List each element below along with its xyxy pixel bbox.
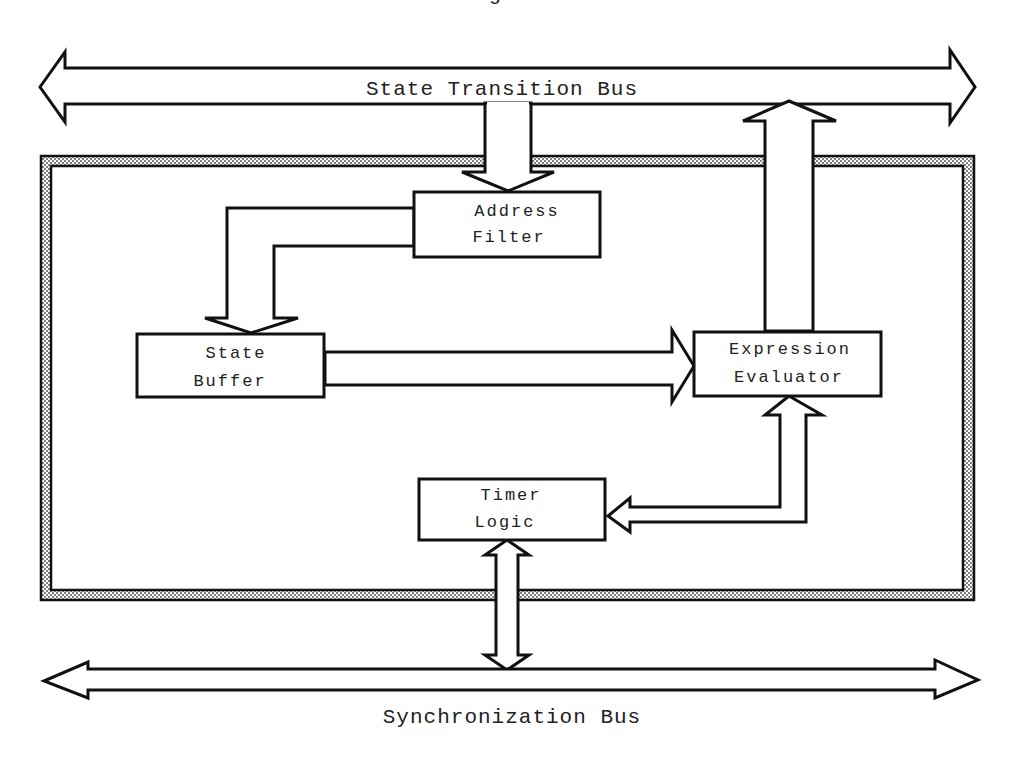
address-filter-block: Address Filter xyxy=(414,192,600,257)
block-diagram: Address Filter State Buffer Expression E… xyxy=(0,0,1015,760)
bus-to-address-filter-arrow xyxy=(462,103,554,191)
expression-evaluator-label-2: Evaluator xyxy=(734,368,844,387)
state-transition-bus-label: State Transition Bus xyxy=(366,78,638,101)
timer-logic-label-1: Timer xyxy=(480,486,541,505)
expression-evaluator-block: Expression Evaluator xyxy=(694,332,881,396)
state-buffer-label-1: State xyxy=(205,344,266,363)
timer-logic-block: Timer Logic xyxy=(419,479,605,540)
timer-logic-label-2: Logic xyxy=(474,513,535,532)
state-buffer-block: State Buffer xyxy=(137,334,324,397)
expression-evaluator-label-1: Expression xyxy=(729,340,851,359)
state-buffer-label-2: Buffer xyxy=(193,372,266,391)
figure-caption-partial: Figure xyxy=(461,0,543,6)
address-filter-label-1: Address xyxy=(474,202,559,221)
address-filter-label-2: Filter xyxy=(472,228,545,247)
synchronization-bus-label: Synchronization Bus xyxy=(383,706,641,729)
